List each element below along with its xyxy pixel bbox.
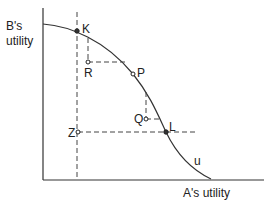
point-Q-marker	[144, 117, 148, 121]
point-label-Q: Q	[134, 113, 143, 125]
point-L-marker	[164, 130, 168, 134]
curve-label-u: u	[194, 155, 201, 167]
point-P-marker	[131, 72, 135, 76]
y-axis-label-line2: utility	[6, 35, 33, 47]
utility-frontier-curve	[43, 24, 211, 179]
point-label-K: K	[82, 23, 90, 35]
point-K-marker	[75, 29, 79, 33]
point-label-L: L	[169, 121, 176, 133]
x-axis-label: A's utility	[183, 187, 230, 199]
point-Z-marker	[76, 130, 80, 134]
utility-possibility-diagram	[0, 0, 270, 203]
point-label-R: R	[84, 67, 93, 79]
point-R-marker	[86, 60, 90, 64]
y-axis-label-line1: B's	[6, 20, 22, 32]
point-label-Z: Z	[68, 127, 75, 139]
point-label-P: P	[137, 67, 145, 79]
